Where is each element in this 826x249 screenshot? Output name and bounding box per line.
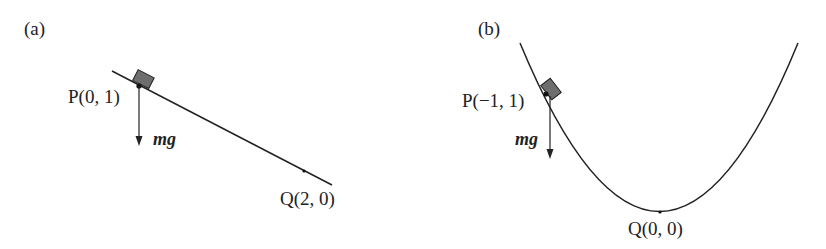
point-p-dot	[543, 91, 548, 96]
parabola-curve	[520, 43, 798, 212]
point-p-label: P(−1, 1)	[462, 91, 524, 110]
arrowhead-icon	[136, 136, 143, 146]
force-label: mg	[515, 130, 538, 148]
arrowhead-icon	[547, 149, 554, 159]
panel-label-a: (a)	[24, 19, 45, 38]
force-label: mg	[153, 130, 176, 148]
block-a	[133, 70, 154, 89]
point-p-label: P(0, 1)	[68, 87, 120, 106]
incline-line	[112, 71, 332, 185]
panel-a	[112, 70, 332, 185]
panel-label-b: (b)	[478, 19, 500, 38]
point-q-dot	[302, 169, 305, 172]
point-q-label: Q(0, 0)	[628, 219, 683, 238]
diagram-canvas	[0, 0, 826, 249]
point-q-label: Q(2, 0)	[280, 189, 335, 208]
panel-b	[520, 43, 798, 214]
point-q-dot	[658, 210, 661, 213]
